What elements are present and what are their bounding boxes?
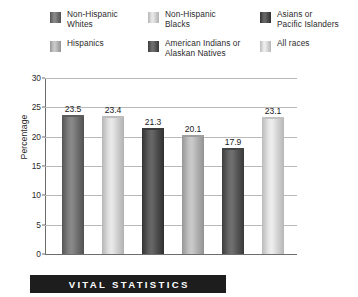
y-axis-tickmark [42, 107, 45, 108]
legend-item: American Indians or Alaskan Natives [148, 39, 240, 58]
chart-legend: Non-Hispanic WhitesNon-Hispanic BlacksAs… [46, 10, 352, 68]
y-axis-tickmark [42, 224, 45, 225]
bar: 20.1 [182, 136, 204, 254]
bar-value-label: 17.9 [225, 137, 242, 147]
legend-item-label: Non-Hispanic Whites [67, 10, 118, 29]
bar: 23.1 [262, 118, 284, 254]
legend-item: Non-Hispanic Blacks [148, 10, 216, 29]
legend-item: Hispanics [50, 39, 104, 52]
legend-item: Non-Hispanic Whites [50, 10, 118, 29]
legend-swatch-icon [148, 12, 159, 23]
y-axis-tickmark [42, 254, 45, 255]
gridline [45, 78, 297, 79]
bar: 23.5 [62, 116, 84, 254]
vital-statistics-banner: VITAL STATISTICS [30, 275, 226, 293]
y-axis-tick-label: 10 [32, 190, 41, 200]
bar-top-edge [182, 135, 204, 137]
x-axis-line [45, 254, 297, 255]
y-axis-tick-label: 30 [32, 73, 41, 83]
legend-item: All races [260, 39, 310, 52]
y-axis-tick-label: 20 [32, 132, 41, 142]
bar-top-edge [142, 128, 164, 130]
legend-swatch-icon [50, 12, 61, 23]
bar-value-label: 20.1 [185, 124, 202, 134]
bar-value-label: 21.3 [145, 117, 162, 127]
y-axis-tick-label: 5 [36, 220, 41, 230]
gridline [45, 107, 297, 108]
y-axis-tick-label: 15 [32, 161, 41, 171]
bar-value-label: 23.1 [265, 106, 282, 116]
y-axis-tickmark [42, 166, 45, 167]
legend-swatch-icon [260, 12, 271, 23]
legend-item-label: Non-Hispanic Blacks [165, 10, 216, 29]
bar-top-edge [102, 116, 124, 118]
bar: 17.9 [222, 149, 244, 254]
y-axis-tickmark [42, 136, 45, 137]
y-axis-label: Percentage [19, 101, 29, 173]
banner-title: VITAL STATISTICS [66, 279, 189, 290]
y-axis-tickmark [42, 195, 45, 196]
y-axis-tick-label: 0 [36, 249, 41, 259]
bar-top-edge [222, 148, 244, 150]
bar-value-label: 23.4 [105, 105, 122, 115]
y-axis-tickmark [42, 78, 45, 79]
bar-top-edge [262, 117, 284, 119]
chart-plot-area: Percentage 05101520253023.523.421.320.11… [0, 68, 358, 268]
legend-item-label: American Indians or Alaskan Natives [165, 39, 240, 58]
bar: 23.4 [102, 117, 124, 254]
bar: 21.3 [142, 129, 164, 254]
legend-item: Asians or Pacific Islanders [260, 10, 339, 29]
legend-item-label: All races [277, 39, 310, 49]
bar-top-edge [62, 115, 84, 117]
bar-value-label: 23.5 [65, 104, 82, 114]
legend-swatch-icon [148, 41, 159, 52]
plot-canvas: 05101520253023.523.421.320.117.923.1 [45, 78, 297, 254]
y-axis-tick-label: 25 [32, 102, 41, 112]
legend-item-label: Asians or Pacific Islanders [277, 10, 339, 29]
legend-swatch-icon [260, 41, 271, 52]
legend-item-label: Hispanics [67, 39, 104, 49]
legend-swatch-icon [50, 41, 61, 52]
